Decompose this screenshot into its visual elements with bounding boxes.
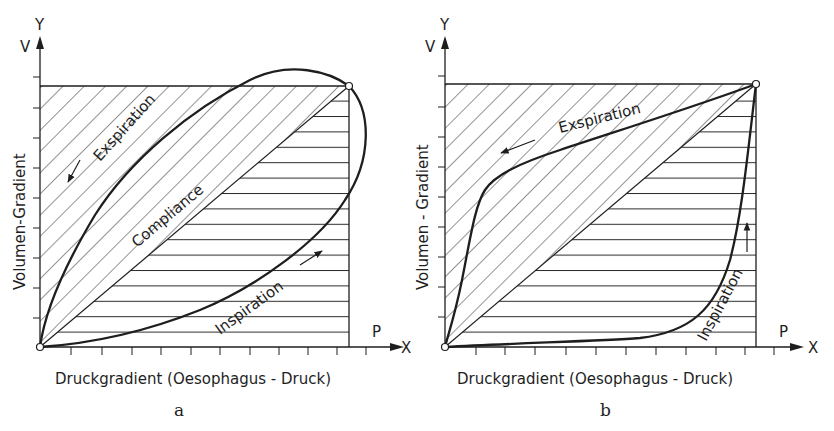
panel-caption: a [174,400,184,420]
y-axis-variable: V [20,38,31,56]
x-ticks [71,347,366,355]
x-axis-title: Druckgradient (Oesophagus - Druck) [457,370,733,388]
y-axis-letter: Y [34,16,45,34]
x-axis-variable: P [779,323,788,341]
x-axis-arrow-icon [790,343,804,351]
x-axis-letter: X [808,339,818,357]
origin-point [37,344,44,351]
y-axis-title: Volumen-Gradient [11,153,29,290]
origin-point [442,344,449,351]
end-inspiration-point [346,83,353,90]
panel-a: Exspiration Compliance Inspiration Y V P… [11,16,411,420]
x-axis-letter: X [401,339,411,357]
x-axis-variable: P [372,323,381,341]
y-axis-variable: V [425,38,436,56]
x-axis-title: Druckgradient (Oesophagus - Druck) [55,370,331,388]
x-ticks [476,347,774,355]
y-axis-title: Volumen - Gradient [414,144,432,290]
figure: Exspiration Compliance Inspiration Y V P… [0,0,834,431]
panel-b: Exspiration Inspiration Y V P X Druckgra… [414,16,818,420]
y-axis-letter: Y [439,16,450,34]
y-axis-arrow-icon [36,36,44,49]
y-ticks [438,76,445,317]
y-ticks [33,77,40,318]
y-axis-arrow-icon [441,36,449,49]
end-inspiration-point [753,81,760,88]
panel-caption: b [600,400,611,420]
